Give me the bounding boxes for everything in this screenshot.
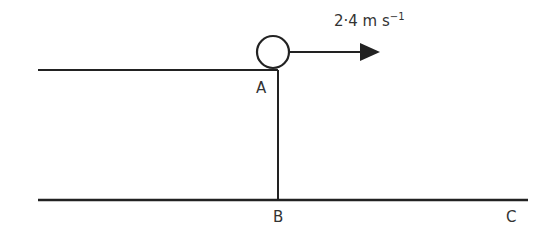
ball [257, 36, 289, 68]
point-label-c: C [506, 208, 516, 226]
point-label-b: B [273, 208, 283, 226]
point-label-a: A [256, 79, 267, 97]
physics-diagram: 2·4 m s−1 A B C [0, 0, 558, 234]
velocity-arrow-head [360, 43, 380, 61]
velocity-label: 2·4 m s−1 [334, 11, 405, 30]
